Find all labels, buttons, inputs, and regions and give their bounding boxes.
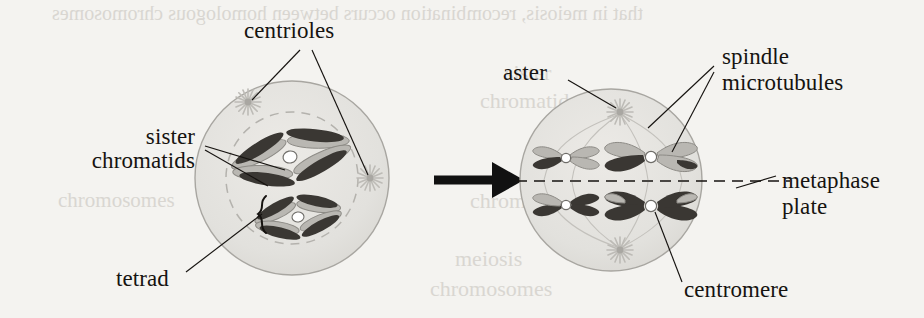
- label-centrioles: centrioles: [244, 18, 334, 43]
- metaphase-cell-group: [516, 89, 790, 271]
- tetrad-upper: [224, 114, 358, 202]
- chromosome-large-lower: [605, 191, 698, 220]
- label-metaphase-plate-line1: metaphase: [782, 168, 880, 193]
- figure-canvas: that in meiosis, recombination occurs be…: [0, 0, 924, 318]
- label-metaphase-plate-line2: plate: [782, 194, 827, 219]
- ghost-text-mid-b: chromatids: [480, 88, 578, 114]
- ghost-text-low-b: chromosomes: [430, 276, 552, 302]
- ghost-text-left: chromosomes: [58, 188, 175, 213]
- ghost-text-low-a: meiosis: [455, 246, 522, 272]
- tetrad-lower: [250, 186, 346, 249]
- label-sister-chromatids-line2: chromatids: [20, 148, 195, 173]
- tetrad-brace: [258, 196, 266, 233]
- label-spindle-line1: spindle: [722, 44, 789, 69]
- chromosome-large-upper: [605, 142, 698, 171]
- chromosome-small-upper: [533, 147, 599, 169]
- label-aster: aster: [503, 60, 547, 85]
- nuclear-envelope: [226, 112, 358, 244]
- prophase-cell-group: [195, 81, 389, 275]
- label-centromere: centromere: [684, 277, 788, 302]
- ghost-text-top: that in meiosis, recombination occurs be…: [52, 2, 643, 25]
- label-spindle-line2: microtubules: [722, 70, 843, 95]
- label-sister-chromatids-line1: sister: [20, 124, 195, 149]
- ghost-text-mid-c: chromosomes: [470, 188, 592, 214]
- label-tetrad: tetrad: [116, 266, 169, 291]
